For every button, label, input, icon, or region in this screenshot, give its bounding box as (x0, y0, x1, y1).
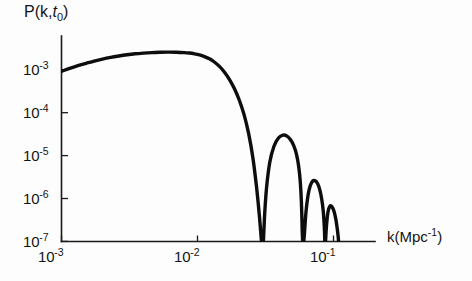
y-tick-label-1: 10-4 (23, 104, 49, 121)
y-tick-label-3: 10-6 (23, 190, 49, 207)
y-axis-label-suffix: ) (63, 3, 68, 20)
y-tick-marks (62, 70, 69, 242)
y-axis-label-prefix: P(k, (24, 3, 52, 20)
y-tick-label-2: 10-5 (23, 147, 49, 164)
power-spectrum-curve (62, 52, 340, 249)
x-tick-label-0: 10-3 (38, 248, 64, 265)
x-axis-label-prefix: k(Mpc (387, 228, 428, 245)
y-tick-label-0: 10-3 (23, 61, 49, 78)
x-tick-label-2: 10-1 (310, 248, 336, 265)
x-axis-label-superscript: -1 (428, 226, 437, 238)
x-axis-label: k(Mpc-1) (387, 228, 442, 245)
power-spectrum-figure: P(k,t0) k(Mpc-1) 10-3 10-4 10-5 10-6 10-… (0, 0, 472, 281)
x-tick-marks (62, 236, 334, 242)
y-axis-label: P(k,t0) (24, 3, 68, 21)
x-tick-label-1: 10-2 (174, 248, 200, 265)
x-axis-label-suffix: ) (437, 228, 442, 245)
